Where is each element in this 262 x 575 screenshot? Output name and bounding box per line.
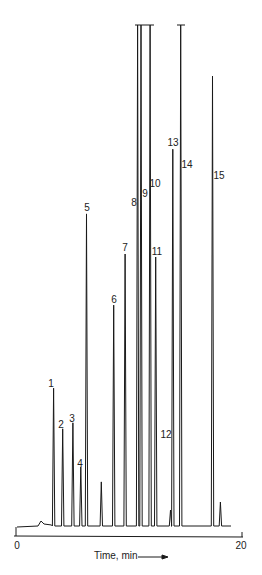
time-arrow-icon — [138, 555, 168, 559]
peak-label: 1 — [48, 379, 54, 389]
chromatogram-plot — [0, 0, 262, 575]
peak-label: 9 — [142, 189, 148, 199]
peak-label: 3 — [69, 414, 75, 424]
peak-label: 6 — [111, 295, 117, 305]
peak-label: 8 — [131, 198, 137, 208]
chromatogram-trace — [17, 25, 231, 527]
x-tick-0: 0 — [14, 541, 20, 551]
peak-label: 2 — [58, 420, 64, 430]
x-axis — [14, 527, 243, 537]
peak-label: 4 — [77, 459, 83, 469]
x-axis-label: Time, min — [94, 551, 138, 561]
x-tick-20: 20 — [235, 541, 246, 551]
peak-label: 14 — [181, 160, 192, 170]
peak-label: 10 — [149, 179, 160, 189]
peak-label: 5 — [84, 203, 90, 213]
peak-label: 13 — [167, 138, 178, 148]
peak-label: 11 — [152, 247, 162, 257]
peak-label: 12 — [160, 430, 171, 440]
peak-label: 15 — [213, 171, 224, 181]
peak-label: 7 — [122, 243, 128, 253]
